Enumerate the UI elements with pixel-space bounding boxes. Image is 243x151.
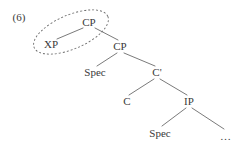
tree-node-ellipsis: … xyxy=(220,131,232,142)
tree-branch xyxy=(97,53,117,66)
tree-node-c-head: C xyxy=(123,96,130,107)
tree-node-c-bar: C' xyxy=(152,67,161,78)
tree-node-spec-ip: Spec xyxy=(149,128,170,139)
tree-node-cp-top: CP xyxy=(82,17,95,28)
tree-node-spec-cp: Spec xyxy=(84,67,105,78)
tree-edges xyxy=(57,28,224,129)
tree-branch xyxy=(129,79,154,95)
example-number-label: (6) xyxy=(13,12,26,23)
tree-branch xyxy=(192,108,224,129)
tree-branch xyxy=(57,28,83,39)
tree-branch xyxy=(162,108,186,126)
tree-branch xyxy=(95,28,118,40)
syntax-tree-figure: (6) CPXPCPSpecC'CIPSpec… xyxy=(0,0,243,151)
tree-diagram-canvas xyxy=(0,0,243,151)
constituent-highlight xyxy=(28,1,115,64)
tree-node-xp: XP xyxy=(44,39,58,50)
tree-node-ip: IP xyxy=(184,96,194,107)
tree-branch xyxy=(124,53,155,66)
tree-node-cp-lower: CP xyxy=(113,41,126,52)
tree-branch xyxy=(160,79,187,95)
constituent-circle xyxy=(28,1,115,64)
